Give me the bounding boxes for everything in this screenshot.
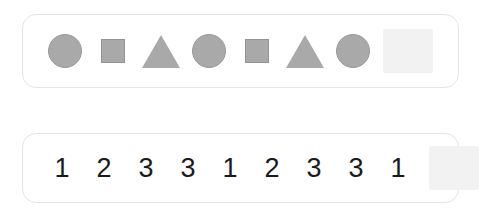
blank-slot-icon bbox=[429, 146, 479, 190]
shape-cell-7[interactable] bbox=[329, 28, 377, 74]
digit-label: 1 bbox=[54, 155, 69, 182]
shape-sequence-track bbox=[23, 15, 458, 87]
circle-icon bbox=[336, 34, 370, 68]
shape-cell-4[interactable] bbox=[185, 28, 233, 74]
digit-label: 2 bbox=[96, 155, 111, 182]
digit-label: 3 bbox=[348, 155, 363, 182]
digit-label: 2 bbox=[264, 155, 279, 182]
number-cell-6[interactable]: 2 bbox=[251, 145, 293, 191]
digit-label: 1 bbox=[222, 155, 237, 182]
square-icon bbox=[245, 39, 269, 63]
blank-slot-icon bbox=[383, 29, 433, 73]
shape-cell-2[interactable] bbox=[89, 28, 137, 74]
triangle-icon bbox=[142, 35, 180, 68]
shape-cell-1[interactable] bbox=[41, 28, 89, 74]
number-cell-3[interactable]: 3 bbox=[125, 145, 167, 191]
number-cell-blank[interactable] bbox=[423, 145, 481, 191]
number-cell-9[interactable]: 1 bbox=[377, 145, 419, 191]
number-cell-1[interactable]: 1 bbox=[41, 145, 83, 191]
number-cell-5[interactable]: 1 bbox=[209, 145, 251, 191]
pattern-puzzle-root: 1 2 3 3 1 2 3 3 bbox=[0, 0, 481, 213]
digit-label: 3 bbox=[138, 155, 153, 182]
square-icon bbox=[101, 39, 125, 63]
number-cell-7[interactable]: 3 bbox=[293, 145, 335, 191]
number-sequence-track: 1 2 3 3 1 2 3 3 bbox=[23, 134, 458, 202]
shape-cell-blank[interactable] bbox=[377, 28, 439, 74]
shape-sequence-panel bbox=[22, 14, 459, 88]
triangle-icon bbox=[286, 35, 324, 68]
circle-icon bbox=[48, 34, 82, 68]
circle-icon bbox=[192, 34, 226, 68]
number-sequence-panel: 1 2 3 3 1 2 3 3 bbox=[22, 133, 459, 203]
shape-cell-3[interactable] bbox=[137, 28, 185, 74]
number-cell-4[interactable]: 3 bbox=[167, 145, 209, 191]
digit-label: 1 bbox=[390, 155, 405, 182]
number-cell-2[interactable]: 2 bbox=[83, 145, 125, 191]
number-cell-8[interactable]: 3 bbox=[335, 145, 377, 191]
digit-label: 3 bbox=[180, 155, 195, 182]
digit-label: 3 bbox=[306, 155, 321, 182]
shape-cell-5[interactable] bbox=[233, 28, 281, 74]
shape-cell-6[interactable] bbox=[281, 28, 329, 74]
